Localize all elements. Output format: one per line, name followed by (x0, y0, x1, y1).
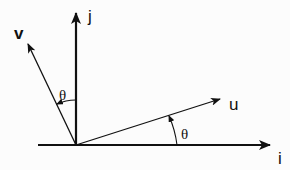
theta-v-label: θ (59, 87, 66, 103)
diagram-canvas: j i u v θ θ (0, 0, 290, 170)
theta-u-arc (169, 116, 177, 145)
j-axis-label: j (87, 7, 92, 26)
v-vector (28, 44, 76, 145)
i-axis-label: i (278, 149, 282, 168)
u-vector-label: u (229, 95, 238, 114)
v-vector-label: v (14, 24, 24, 43)
u-vector (76, 99, 220, 145)
theta-u-label: θ (181, 126, 188, 142)
vector-diagram: j i u v θ θ (0, 0, 290, 170)
